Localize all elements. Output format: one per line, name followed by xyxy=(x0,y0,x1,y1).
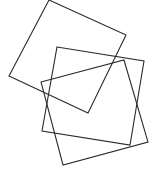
diagram-canvas xyxy=(0,0,152,170)
square-bottom xyxy=(41,60,148,165)
square-middle xyxy=(42,47,144,145)
square-top xyxy=(9,0,126,113)
